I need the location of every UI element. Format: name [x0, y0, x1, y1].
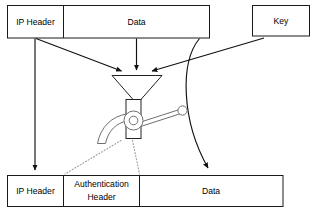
input-ip-header-label: IP Header [16, 17, 55, 27]
output-ip-header-label: IP Header [16, 186, 55, 196]
valve-curved-spout [98, 114, 128, 144]
auth-header-output-dotted-left [65, 141, 121, 175]
input-packet-row: IP Header Data [8, 6, 210, 39]
output-auth-header-label-line2: Header [87, 192, 115, 202]
input-data-label: Data [127, 17, 145, 27]
key-box-group: Key [253, 6, 310, 37]
output-data-label: Data [202, 186, 220, 196]
ip-header-to-funnel-arrow [36, 39, 122, 72]
output-auth-header-label-line1: Authentication [74, 179, 129, 189]
key-to-funnel-arrow [152, 38, 264, 71]
output-packet-row: IP Header Authentication Header Data [8, 176, 284, 207]
valve-hub-inner [129, 116, 138, 125]
funnel-cone [112, 76, 162, 101]
funnel-valve-icon [98, 76, 188, 144]
valve-lever-knob [178, 106, 187, 115]
auth-header-output-dotted-right [133, 141, 140, 175]
ipsec-ah-diagram: IP Header Data Key [0, 0, 315, 211]
key-label: Key [274, 16, 290, 26]
diagram-canvas: IP Header Data Key [0, 0, 315, 211]
